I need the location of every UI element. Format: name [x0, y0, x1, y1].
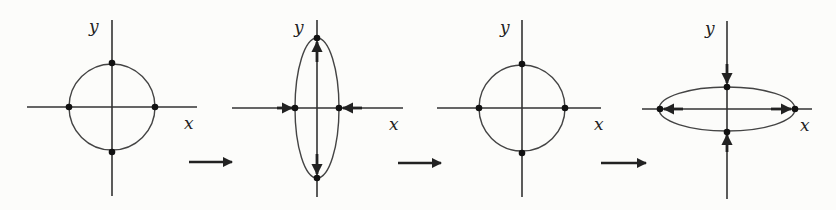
point-left — [66, 104, 73, 111]
point-bottom — [109, 149, 116, 156]
y-axis-label: y — [499, 17, 510, 37]
point-bottom — [519, 150, 526, 157]
point-right — [562, 105, 569, 112]
point-left — [292, 105, 299, 112]
point-left — [657, 106, 664, 113]
y-axis-label: y — [88, 16, 99, 36]
x-axis-label: x — [594, 114, 604, 134]
x-axis-label: x — [389, 114, 399, 134]
point-bottom — [314, 175, 321, 182]
y-axis-label: y — [293, 17, 304, 37]
x-axis-label: x — [184, 113, 194, 133]
point-top — [109, 60, 116, 67]
point-right — [152, 104, 159, 111]
point-left — [476, 105, 483, 112]
panel-3-circle: y x — [437, 17, 604, 197]
point-top — [519, 61, 526, 68]
x-axis-label: x — [800, 115, 810, 135]
point-right — [336, 105, 343, 112]
point-right — [792, 106, 799, 113]
point-top — [314, 35, 321, 42]
panel-4-horizontal-ellipse: y x — [642, 18, 812, 199]
point-bottom — [724, 129, 731, 136]
y-axis-label: y — [704, 18, 715, 38]
panel-1-circle: y x — [27, 16, 197, 196]
deformation-diagram: y x y x y x — [0, 0, 836, 210]
panel-2-vertical-ellipse: y x — [232, 17, 403, 197]
point-top — [724, 84, 731, 91]
